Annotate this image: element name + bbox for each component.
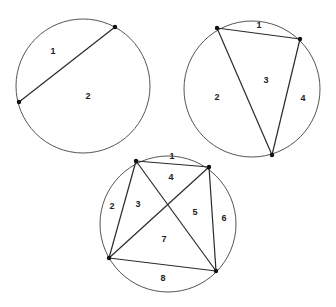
vertex-point bbox=[270, 153, 274, 157]
region-label: 4 bbox=[168, 172, 173, 182]
circle-triangle: 1234 bbox=[184, 20, 320, 157]
vertex-point bbox=[17, 100, 21, 104]
region-label: 3 bbox=[135, 199, 140, 209]
chord-line bbox=[136, 161, 209, 167]
chord-line bbox=[19, 27, 115, 102]
vertex-point bbox=[215, 26, 219, 30]
region-label: 3 bbox=[263, 75, 268, 85]
circle bbox=[16, 19, 150, 153]
vertex-point bbox=[214, 269, 218, 273]
region-label: 8 bbox=[160, 273, 165, 283]
vertex-point bbox=[113, 25, 117, 29]
circle-quadrilateral: 14235678 bbox=[100, 151, 236, 292]
vertex-point bbox=[207, 165, 211, 169]
region-label: 2 bbox=[214, 92, 219, 102]
vertex-point bbox=[107, 256, 111, 260]
region-label: 1 bbox=[50, 46, 55, 56]
circle-one-chord: 12 bbox=[16, 19, 150, 153]
region-label: 5 bbox=[192, 207, 197, 217]
region-label: 7 bbox=[161, 234, 166, 244]
region-label: 2 bbox=[85, 91, 90, 101]
chord-region-diagrams: 12123414235678 bbox=[0, 0, 336, 307]
vertex-point bbox=[298, 37, 302, 41]
region-label: 2 bbox=[109, 201, 114, 211]
region-label: 1 bbox=[169, 151, 174, 161]
chord-line bbox=[136, 161, 216, 271]
chord-line bbox=[272, 39, 300, 155]
region-label: 1 bbox=[256, 20, 261, 30]
chord-line bbox=[209, 167, 216, 271]
region-label: 4 bbox=[300, 93, 305, 103]
chord-line bbox=[217, 28, 272, 155]
vertex-point bbox=[134, 159, 138, 163]
region-label: 6 bbox=[221, 213, 226, 223]
chord-line bbox=[109, 258, 216, 271]
